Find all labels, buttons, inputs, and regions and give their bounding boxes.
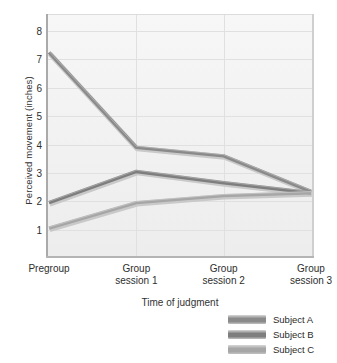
legend-item[interactable]: Subject A [228, 312, 334, 327]
chart-legend: Subject ASubject BSubject C [228, 312, 334, 357]
y-tick-label: 7 [22, 54, 42, 65]
y-tick-label: 3 [22, 167, 42, 178]
y-tick-label: 2 [22, 196, 42, 207]
legend-label: Subject C [273, 344, 314, 355]
y-tick-label: 6 [22, 82, 42, 93]
legend-item[interactable]: Subject C [228, 342, 334, 357]
y-tick-label: 1 [22, 224, 42, 235]
x-tick-label: Pregroup [6, 263, 92, 275]
legend-label: Subject B [273, 329, 314, 340]
chart-figure: Perceived movement (inches) 12345678 Pre… [0, 0, 337, 363]
legend-swatch [228, 315, 266, 324]
series-line-shadow [50, 54, 312, 193]
y-axis-tick-labels: 12345678 [22, 14, 42, 258]
legend-swatch [228, 345, 266, 354]
series-line [49, 52, 311, 191]
x-axis-tick-labels: PregroupGroupsession 1Groupsession 2Grou… [0, 263, 337, 297]
x-tick-label: Groupsession 2 [181, 263, 267, 286]
plot-area [46, 14, 314, 258]
x-tick-label: Groupsession 1 [93, 263, 179, 286]
y-tick-label: 8 [22, 26, 42, 37]
legend-label: Subject A [273, 314, 313, 325]
x-axis-title: Time of judgment [46, 297, 314, 308]
legend-swatch [228, 330, 266, 339]
x-tick-label: Groupsession 3 [268, 263, 337, 286]
y-tick-label: 5 [22, 111, 42, 122]
y-tick-label: 4 [22, 139, 42, 150]
series-lines [46, 14, 314, 258]
legend-item[interactable]: Subject B [228, 327, 334, 342]
series-line-highlight [49, 51, 311, 190]
